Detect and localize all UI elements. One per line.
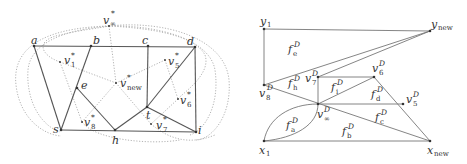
svg-text:D: D xyxy=(291,116,298,125)
label-v-inf-star: v ∞ * xyxy=(103,9,116,28)
svg-text:7: 7 xyxy=(163,126,167,134)
node-x1 xyxy=(263,140,266,143)
svg-text:b: b xyxy=(347,132,352,140)
label-i: i xyxy=(198,124,202,137)
face-label-fh: f h D xyxy=(287,74,300,92)
svg-text:y: y xyxy=(430,18,438,31)
svg-text:D: D xyxy=(336,78,343,87)
node-b xyxy=(90,45,93,48)
label-vinfd: v ∞ D xyxy=(317,105,330,123)
svg-text:D: D xyxy=(380,108,387,117)
right-graph: y 1 y new x 1 x new v 8 D v 7 xyxy=(259,15,453,158)
svg-text:*: * xyxy=(71,51,75,60)
svg-text:∞: ∞ xyxy=(110,20,116,28)
svg-text:x: x xyxy=(427,144,434,157)
svg-text:new: new xyxy=(127,84,142,92)
node-s xyxy=(60,129,63,132)
face-label-fa: f a D xyxy=(285,116,298,134)
node-v8d xyxy=(263,84,266,87)
label-v1-star: v 1 * xyxy=(64,51,75,69)
label-vnew-star: v new * xyxy=(120,73,142,92)
svg-text:v: v xyxy=(156,119,163,132)
dual-node-v5 xyxy=(164,59,166,61)
svg-text:6: 6 xyxy=(379,69,384,77)
left-graph: a b c d e t s h i v ∞ * v 1 * v 5 xyxy=(16,9,230,147)
label-c: c xyxy=(142,34,148,47)
svg-text:i: i xyxy=(336,88,339,96)
svg-text:D: D xyxy=(311,69,318,78)
face-label-fd: f d D xyxy=(370,85,383,103)
dual-node-vnew xyxy=(115,82,117,84)
label-h: h xyxy=(112,134,119,147)
node-d xyxy=(194,46,197,49)
svg-text:D: D xyxy=(376,85,383,94)
label-v6-star: v 6 * xyxy=(180,90,192,109)
svg-text:∞: ∞ xyxy=(324,115,330,123)
svg-text:1: 1 xyxy=(71,61,75,69)
svg-text:D: D xyxy=(293,40,300,49)
svg-text:8: 8 xyxy=(266,94,270,102)
label-v5d: v 5 D xyxy=(406,90,419,108)
svg-text:1: 1 xyxy=(267,21,271,29)
svg-text:*: * xyxy=(91,113,95,122)
svg-text:D: D xyxy=(323,105,330,114)
svg-text:v: v xyxy=(406,93,413,106)
svg-text:*: * xyxy=(127,73,131,82)
label-t: t xyxy=(146,109,151,122)
svg-text:*: * xyxy=(187,90,191,99)
svg-text:7: 7 xyxy=(312,79,316,87)
node-y1 xyxy=(263,28,266,31)
dual-node-v6 xyxy=(177,98,179,100)
label-v5-star: v 5 * xyxy=(168,51,179,70)
label-d: d xyxy=(187,35,194,48)
svg-text:v: v xyxy=(259,87,266,100)
face-label-fc: f c D xyxy=(374,108,387,126)
svg-text:1: 1 xyxy=(266,150,270,158)
svg-text:D: D xyxy=(266,83,273,92)
svg-text:*: * xyxy=(175,51,179,60)
svg-text:a: a xyxy=(291,126,295,134)
svg-text:v: v xyxy=(305,72,312,85)
dual-node-v1 xyxy=(59,61,61,63)
svg-text:v: v xyxy=(180,94,187,107)
label-b: b xyxy=(93,34,100,47)
node-xnew xyxy=(429,140,432,143)
svg-text:v: v xyxy=(120,77,127,90)
svg-text:c: c xyxy=(380,118,384,126)
svg-text:D: D xyxy=(293,74,300,83)
svg-text:D: D xyxy=(347,122,354,131)
node-vinfd xyxy=(317,103,320,106)
node-h xyxy=(114,129,117,132)
svg-text:e: e xyxy=(293,50,297,58)
svg-text:new: new xyxy=(434,150,449,158)
svg-text:y: y xyxy=(259,15,267,28)
svg-text:*: * xyxy=(163,115,167,124)
label-y1: y 1 xyxy=(259,15,271,29)
dual-nodes xyxy=(59,25,179,125)
svg-text:5: 5 xyxy=(175,62,179,70)
label-xnew: x new xyxy=(427,144,449,158)
label-v6d: v 6 D xyxy=(372,59,385,77)
label-s: s xyxy=(53,123,59,136)
svg-text:v: v xyxy=(372,62,379,75)
diagram-canvas: a b c d e t s h i v ∞ * v 1 * v 5 xyxy=(0,0,467,164)
label-v7-star: v 7 * xyxy=(156,115,167,134)
node-i xyxy=(195,131,198,134)
node-v6d xyxy=(373,76,376,79)
dual-node-v7 xyxy=(150,123,152,125)
svg-text:v: v xyxy=(103,14,110,27)
svg-text:v: v xyxy=(64,54,71,67)
svg-text:v: v xyxy=(168,55,175,68)
label-ynew: y new xyxy=(430,18,453,32)
svg-text:v: v xyxy=(84,116,91,129)
node-v5d xyxy=(402,103,405,106)
node-e xyxy=(76,87,79,90)
node-t xyxy=(146,106,149,109)
svg-text:d: d xyxy=(376,95,381,103)
svg-text:D: D xyxy=(378,59,385,68)
svg-text:h: h xyxy=(293,84,298,92)
label-v8-star: v 8 * xyxy=(84,113,95,131)
face-label-fb: f b D xyxy=(341,122,354,140)
dual-node-v8 xyxy=(81,121,83,123)
svg-text:v: v xyxy=(317,108,324,121)
